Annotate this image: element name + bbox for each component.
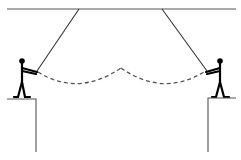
rope-swing-diagram bbox=[0, 0, 241, 160]
right-swing-path bbox=[121, 68, 204, 84]
left-rope bbox=[37, 9, 79, 71]
right-rope bbox=[162, 9, 207, 71]
left-ledge bbox=[7, 99, 36, 152]
left-swing-path bbox=[38, 68, 121, 84]
left-person bbox=[14, 58, 37, 97]
right-ledge bbox=[208, 98, 236, 152]
right-person bbox=[206, 58, 229, 97]
